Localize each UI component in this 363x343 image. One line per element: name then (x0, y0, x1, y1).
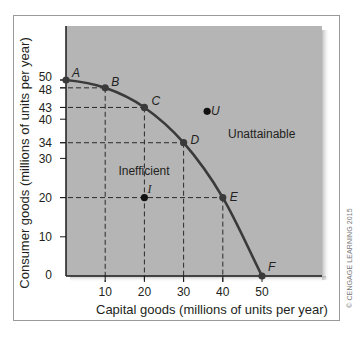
point-label: B (111, 75, 119, 89)
plot-shadow-bottom (70, 276, 326, 282)
y-tick-label: 48 (39, 83, 53, 97)
y-tick-label: 43 (39, 101, 53, 115)
inefficient-label: Inefficient (118, 164, 170, 178)
point-e (219, 194, 226, 201)
point-label: F (268, 260, 276, 274)
y-tick-label: 10 (39, 230, 53, 244)
x-tick-label: 40 (216, 285, 230, 299)
ppf-chart: 01020303440434850 1020304050 ABCDEF IU I… (0, 0, 363, 343)
y-tick-label: 50 (39, 70, 53, 84)
y-axis-label: Consumer goods (millions of units per ye… (17, 37, 32, 288)
y-tick-label: 0 (45, 268, 52, 282)
point-u (204, 108, 211, 115)
unattainable-label: Unattainable (228, 127, 296, 141)
x-axis-label: Capital goods (millions of units per yea… (96, 302, 328, 317)
x-tick-label: 10 (99, 285, 113, 299)
point-label: U (211, 104, 220, 118)
x-tick-label: 30 (177, 285, 191, 299)
point-label: D (191, 133, 200, 147)
point-c (141, 104, 148, 111)
y-ticks: 01020303440434850 (39, 70, 66, 282)
y-tick-label: 30 (39, 152, 53, 166)
point-d (180, 139, 187, 146)
x-tick-label: 20 (138, 285, 152, 299)
point-f (258, 272, 265, 279)
point-label: A (71, 66, 80, 80)
point-label: C (151, 94, 160, 108)
point-b (102, 84, 109, 91)
y-tick-label: 34 (39, 136, 53, 150)
x-tick-label: 50 (255, 285, 269, 299)
y-tick-label: 20 (39, 191, 53, 205)
point-label: E (230, 190, 239, 204)
plot-shadow-right (322, 30, 330, 280)
copyright-notice: © CENGAGE LEARNING 2015 (346, 208, 353, 308)
point-a (62, 76, 69, 83)
plot-area (66, 26, 322, 276)
